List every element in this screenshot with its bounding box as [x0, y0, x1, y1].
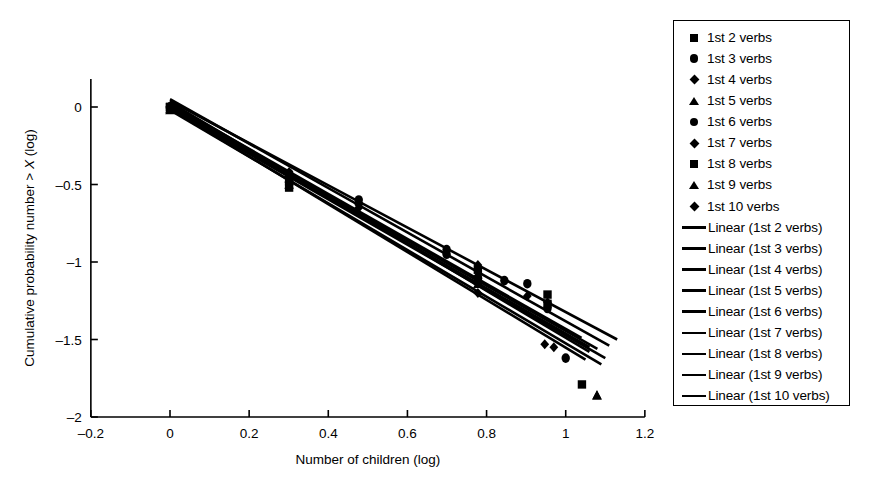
legend-item-label: 1st 9 verbs	[707, 178, 772, 192]
line-glyph	[682, 268, 706, 271]
x-axis-tick-label: 1	[562, 426, 570, 441]
marker-glyph	[689, 138, 699, 148]
line-glyph	[682, 395, 706, 398]
data-point-marker	[500, 276, 508, 286]
legend-item-marker[interactable]: 1st 7 verbs	[674, 132, 849, 153]
line-swatch-icon	[681, 282, 708, 300]
legend-item-marker[interactable]: 1st 6 verbs	[674, 111, 849, 132]
legend-item-label: Linear (1st 4 verbs)	[708, 263, 822, 277]
legend-item-marker[interactable]: 1st 2 verbs	[674, 27, 849, 48]
legend-item-line[interactable]: Linear (1st 7 verbs)	[674, 322, 849, 343]
legend-item-marker[interactable]: 1st 9 verbs	[674, 175, 849, 196]
plot-area: –0.200.20.40.60.811.20–0.5–1–1.5–2Number…	[0, 0, 670, 488]
legend-item-label: Linear (1st 7 verbs)	[708, 326, 822, 340]
data-point-marker	[562, 353, 570, 363]
regression-line	[170, 109, 586, 360]
legend-item-marker[interactable]: 1st 8 verbs	[674, 154, 849, 175]
diamond-marker-icon	[681, 134, 707, 152]
data-point-marker	[540, 339, 549, 349]
legend-item-label: Linear (1st 9 verbs)	[708, 368, 822, 382]
data-point-marker	[543, 290, 551, 298]
line-glyph	[682, 353, 706, 356]
legend-item-label: 1st 2 verbs	[707, 31, 772, 45]
data-point-marker	[474, 266, 482, 274]
legend-item-line[interactable]: Linear (1st 10 verbs)	[674, 386, 849, 407]
scatter-plot-svg: –0.200.20.40.60.811.20–0.5–1–1.5–2Number…	[0, 0, 670, 488]
legend-item-label: Linear (1st 5 verbs)	[708, 284, 822, 298]
marker-glyph	[689, 97, 699, 105]
legend-item-label: 1st 8 verbs	[707, 157, 772, 171]
legend-item-marker[interactable]: 1st 5 verbs	[674, 90, 849, 111]
line-glyph	[682, 289, 706, 292]
legend-item-line[interactable]: Linear (1st 8 verbs)	[674, 343, 849, 364]
line-glyph	[682, 247, 706, 250]
legend-item-marker[interactable]: 1st 10 verbs	[674, 196, 849, 217]
data-point-marker	[442, 249, 450, 259]
x-axis-title: Number of children (log)	[295, 452, 440, 467]
line-swatch-icon	[681, 218, 708, 236]
axes-group	[91, 79, 645, 417]
marker-glyph	[690, 54, 699, 63]
x-axis-tick-label: 1.2	[635, 426, 654, 441]
legend-item-label: 1st 4 verbs	[707, 73, 772, 87]
marker-glyph	[690, 160, 698, 168]
regression-line	[170, 104, 582, 338]
y-axis-tick-label: –1.5	[56, 333, 82, 348]
diamond-marker-icon	[681, 197, 707, 215]
legend-item-label: 1st 10 verbs	[707, 200, 779, 214]
legend-item-line[interactable]: Linear (1st 3 verbs)	[674, 238, 849, 259]
x-axis-tick-label: 0.4	[319, 426, 338, 441]
legend-item-line[interactable]: Linear (1st 9 verbs)	[674, 365, 849, 386]
square-marker-icon	[681, 155, 707, 173]
legend-item-marker[interactable]: 1st 4 verbs	[674, 69, 849, 90]
line-swatch-icon	[681, 387, 708, 405]
marker-glyph	[689, 201, 699, 211]
line-swatch-icon	[681, 324, 708, 342]
axis-labels-group: –0.200.20.40.60.811.20–0.5–1–1.5–2Number…	[22, 100, 654, 467]
marker-glyph	[690, 118, 699, 127]
line-glyph	[682, 374, 706, 377]
regression-line	[170, 105, 597, 348]
legend-item-label: Linear (1st 8 verbs)	[708, 347, 822, 361]
triangle-marker-icon	[681, 176, 707, 194]
line-swatch-icon	[681, 261, 708, 279]
y-axis-title: Cumulative probability number > X (log)	[22, 129, 37, 367]
legend-item-line[interactable]: Linear (1st 6 verbs)	[674, 301, 849, 322]
circle-marker-icon	[681, 50, 707, 68]
line-swatch-icon	[681, 239, 708, 257]
x-axis-tick-label: 0	[166, 426, 174, 441]
regression-line	[170, 107, 589, 347]
y-axis-tick-label: 0	[74, 100, 82, 115]
legend-item-line[interactable]: Linear (1st 5 verbs)	[674, 280, 849, 301]
legend-item-label: Linear (1st 3 verbs)	[708, 242, 822, 256]
line-swatch-icon	[681, 303, 708, 321]
triangle-marker-icon	[681, 92, 707, 110]
line-swatch-icon	[681, 345, 708, 363]
legend-item-label: Linear (1st 10 verbs)	[708, 389, 830, 403]
marker-glyph	[690, 34, 698, 42]
legend-item-line[interactable]: Linear (1st 4 verbs)	[674, 259, 849, 280]
regression-line	[170, 109, 605, 359]
data-point-marker	[523, 279, 531, 289]
circle-marker-icon	[681, 113, 707, 131]
diamond-marker-icon	[681, 71, 707, 89]
data-point-marker	[578, 380, 586, 388]
marker-glyph	[689, 181, 699, 189]
y-axis-tick-label: –1	[67, 255, 82, 270]
x-axis-tick-label: –0.2	[78, 426, 104, 441]
legend-item-label: Linear (1st 2 verbs)	[708, 221, 822, 235]
legend-item-label: 1st 6 verbs	[707, 115, 772, 129]
x-axis-tick-label: 0.2	[240, 426, 259, 441]
data-point-marker	[592, 390, 602, 399]
line-glyph	[682, 310, 706, 313]
legend-item-line[interactable]: Linear (1st 2 verbs)	[674, 217, 849, 238]
legend-item-label: 1st 7 verbs	[707, 136, 772, 150]
line-swatch-icon	[681, 366, 708, 384]
square-marker-icon	[681, 29, 707, 47]
regression-lines-group	[170, 99, 617, 364]
legend-item-marker[interactable]: 1st 3 verbs	[674, 48, 849, 69]
line-glyph	[682, 226, 706, 229]
y-axis-tick-label: –2	[67, 410, 82, 425]
y-axis-tick-label: –0.5	[56, 178, 82, 193]
legend-item-label: 1st 3 verbs	[707, 52, 772, 66]
